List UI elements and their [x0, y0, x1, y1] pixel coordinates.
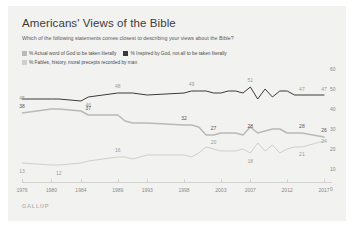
chart-series-line — [22, 109, 324, 137]
data-point-label: 49 — [189, 81, 195, 87]
x-axis-tick-label: 1984 — [75, 187, 86, 193]
x-axis-tick-mark — [147, 179, 148, 182]
source-attribution: GALLUP — [22, 203, 49, 209]
data-point-label: 18 — [248, 158, 254, 164]
data-point-label: 37 — [86, 105, 92, 111]
y-axis: 0102030405060 — [328, 66, 352, 192]
x-axis-line — [22, 182, 332, 183]
legend-swatch-icon — [22, 51, 27, 56]
x-axis-tick-label: 1993 — [142, 187, 153, 193]
chart-subtitle: Which of the following statements comes … — [22, 35, 234, 41]
data-point-label: 45 — [19, 95, 25, 101]
y-axis-tick-label: 0 — [330, 186, 333, 192]
x-axis-tick-label: 1989 — [112, 187, 123, 193]
x-axis-tick-label: 1980 — [46, 187, 57, 193]
y-axis-tick-label: 30 — [330, 126, 336, 132]
x-axis-tick-mark — [22, 179, 23, 182]
x-axis-tick-mark — [250, 179, 251, 182]
y-axis-tick-label: 50 — [330, 86, 336, 92]
x-axis-tick-mark — [184, 179, 185, 182]
x-axis-tick-mark — [51, 179, 52, 182]
x-axis-tick-label: 2003 — [215, 187, 226, 193]
x-axis-tick-label: 2007 — [245, 187, 256, 193]
x-axis-tick-mark — [221, 179, 222, 182]
y-axis-tick-label: 60 — [330, 66, 336, 72]
chart-card: Americans' Views of the Bible Which of t… — [8, 6, 346, 221]
x-axis: 1976198019841989199319982003200720122017 — [22, 182, 332, 198]
data-point-label: 28 — [299, 123, 305, 129]
data-point-label: 51 — [248, 77, 254, 83]
page-title: Americans' Views of the Bible — [22, 17, 176, 29]
data-point-label: 28 — [248, 123, 254, 129]
data-point-label: 27 — [211, 125, 217, 131]
data-point-label: 13 — [19, 168, 25, 174]
legend-item-label: % Fables, history, moral precepts record… — [29, 60, 137, 65]
x-axis-tick-mark — [287, 179, 288, 182]
x-axis-tick-mark — [118, 179, 119, 182]
x-axis-tick-label: 1998 — [178, 187, 189, 193]
legend-row-primary: % Actual word of God to be taken literal… — [22, 51, 234, 56]
x-axis-tick-mark — [81, 179, 82, 182]
chart-series-line — [22, 141, 324, 165]
data-point-label: 47 — [321, 86, 327, 92]
data-point-label: 32 — [181, 115, 187, 121]
legend-row-secondary: % Fables, history, moral precepts record… — [22, 60, 144, 65]
x-axis-tick-label: 1976 — [16, 187, 27, 193]
data-point-label: 12 — [56, 170, 62, 176]
data-point-label: 26 — [321, 127, 327, 133]
data-point-label: 21 — [299, 151, 305, 157]
legend-swatch-icon — [22, 60, 27, 65]
data-point-label: 20 — [211, 139, 217, 145]
y-axis-tick-label: 40 — [330, 106, 336, 112]
legend-item-label: % Inspired by God, not all to be taken l… — [130, 51, 226, 56]
y-axis-tick-label: 20 — [330, 146, 336, 152]
data-point-label: 16 — [115, 147, 121, 153]
data-point-label: 38 — [19, 103, 25, 109]
x-axis-tick-label: 2012 — [282, 187, 293, 193]
legend-item-fables: % Fables, history, moral precepts record… — [22, 60, 137, 65]
data-point-label: 48 — [115, 83, 121, 89]
legend-swatch-icon — [123, 51, 128, 56]
x-axis-tick-mark — [324, 179, 325, 182]
chart-svg — [22, 69, 332, 189]
legend-item-inspired-by-god: % Inspired by God, not all to be taken l… — [123, 51, 226, 56]
legend-item-label: % Actual word of God to be taken literal… — [29, 51, 116, 56]
legend-item-actual-word: % Actual word of God to be taken literal… — [22, 51, 116, 56]
data-point-label: 47 — [299, 86, 305, 92]
chart-series-line — [22, 87, 324, 101]
y-axis-tick-label: 10 — [330, 166, 336, 172]
data-point-label: 24 — [321, 138, 327, 144]
line-chart-plot-area: 4546484951474738373227282826131216201821… — [22, 69, 332, 189]
